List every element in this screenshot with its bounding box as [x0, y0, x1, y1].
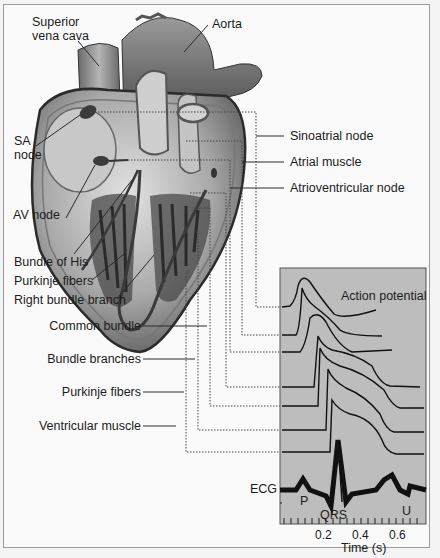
action-potential-panel	[280, 268, 426, 524]
panel-title: Action potential	[341, 289, 426, 303]
label-ventricular-muscle: Ventricular muscle	[39, 419, 141, 433]
label-common-bundle: Common bundle	[49, 319, 141, 333]
wave-label-qrs: QRS	[320, 508, 347, 522]
label-line-2: node	[14, 148, 42, 162]
label-atrial-muscle: Atrial muscle	[290, 155, 362, 169]
av-node	[93, 156, 109, 166]
label-atrioventricular-node: Atrioventricular node	[290, 181, 405, 195]
wave-label-u: U	[402, 504, 411, 518]
label-aorta: Aorta	[212, 17, 242, 31]
label-line-1: SA	[14, 134, 42, 148]
xtick-0-2: 0.2	[315, 528, 332, 542]
label-bundle-branches: Bundle branches	[47, 352, 141, 366]
label-av-node: AV node	[13, 208, 60, 222]
xtick-0-4: 0.4	[352, 528, 369, 542]
label-purkinje-fibers-heart: Purkinje fibers	[14, 274, 93, 288]
valve-ring	[178, 104, 208, 122]
x-axis-label: Time (s)	[341, 541, 386, 555]
label-bundle-of-his: Bundle of His	[14, 255, 88, 269]
label-sinoatrial-node: Sinoatrial node	[290, 129, 373, 143]
right-atrium	[44, 108, 116, 192]
label-line-2: vena cava	[32, 29, 89, 43]
label-line-1: Superior	[32, 15, 89, 29]
label-purkinje-fibers: Purkinje fibers	[62, 385, 141, 399]
xtick-0-6: 0.6	[389, 528, 406, 542]
ecg-label: ECG	[250, 482, 277, 496]
label-right-bundle-branch: Right bundle branch	[14, 293, 126, 307]
label-superior-vena-cava: Superior vena cava	[32, 15, 89, 43]
wave-label-p: P	[300, 494, 308, 508]
label-sa-node: SA node	[14, 134, 42, 162]
